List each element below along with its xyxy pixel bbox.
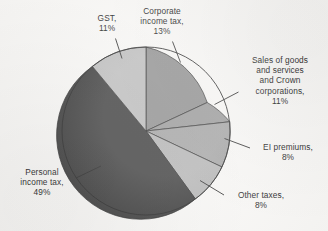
pie-chart-figure: Corporate income tax, 13% Sales of goods… bbox=[0, 0, 328, 231]
chart-plot-area: Corporate income tax, 13% Sales of goods… bbox=[0, 0, 328, 231]
leader-line-sales-of-goods bbox=[215, 92, 239, 105]
pie-label-sales-of-goods: Sales of goods and services and Crown co… bbox=[236, 55, 324, 106]
pie-label-other-taxes: Other taxes, 8% bbox=[226, 190, 296, 210]
pie-label-ei-premiums: EI premiums, 8% bbox=[252, 142, 324, 162]
pie-label-gst: GST, 11% bbox=[88, 13, 126, 33]
pie-label-corporate-income-tax: Corporate income tax, 13% bbox=[128, 6, 196, 37]
pie-label-personal-income-tax: Personal income tax, 49% bbox=[8, 167, 76, 198]
